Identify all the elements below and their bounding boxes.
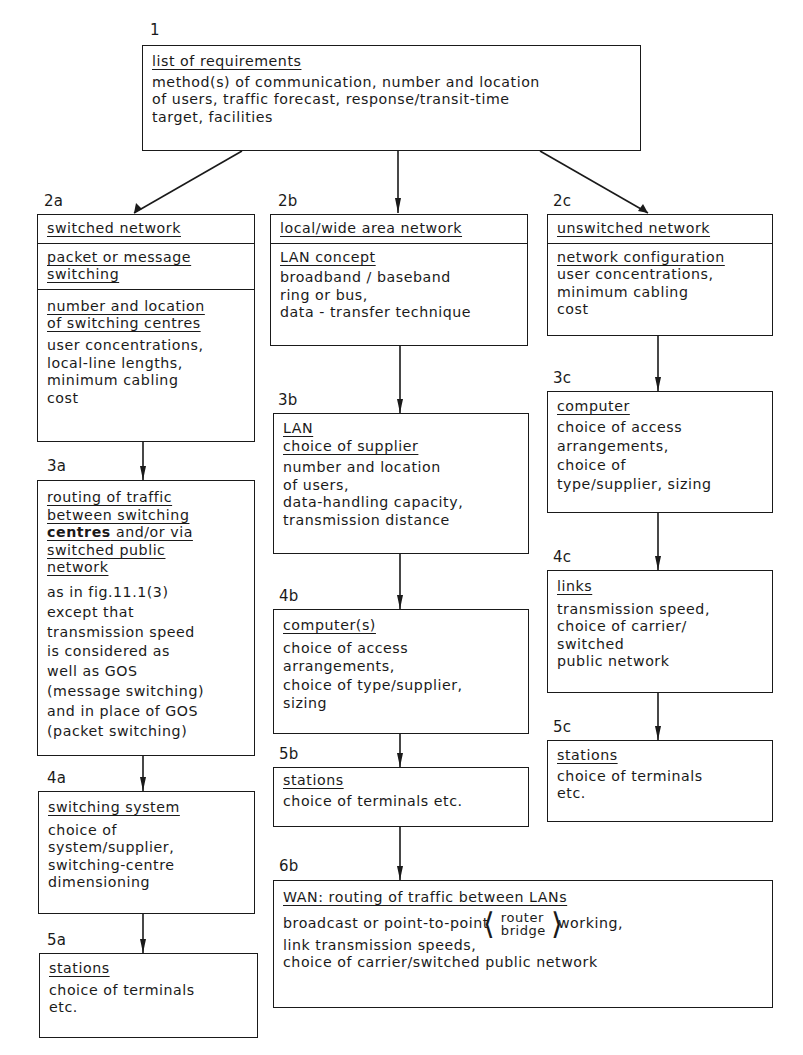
- router-bridge-bracket: router bridge: [493, 911, 554, 937]
- node-body: transmission speed, choice of carrier/ s…: [557, 601, 764, 671]
- node-body: choice of access arrangements, choice of…: [557, 418, 764, 494]
- node-body-line1: broadcast or point-to-point router bridg…: [283, 911, 764, 937]
- node-computers: computer(s) choice of access arrangement…: [273, 609, 529, 734]
- node-subtitle: LAN concept: [280, 249, 519, 267]
- node-title: computer(s): [283, 617, 520, 635]
- step-number-2c: 2c: [553, 193, 571, 209]
- node-title: links: [557, 578, 764, 596]
- node-title: stations: [49, 960, 249, 978]
- title-bold-part: centres: [47, 524, 111, 540]
- node-subtitle: packet or message switching: [47, 249, 246, 284]
- node-title: LAN choice of supplier: [283, 420, 520, 455]
- node-body: user concentrations, minimum cabling cos…: [557, 266, 764, 319]
- node-title: list of requirements: [152, 53, 632, 71]
- line-suffix: working,: [558, 915, 623, 933]
- node-switched-network: switched network packet or message switc…: [37, 214, 255, 442]
- step-number-3a: 3a: [47, 458, 66, 474]
- title-part: routing of traffic between switching: [47, 489, 189, 523]
- node-title: stations: [557, 747, 764, 765]
- line-prefix: broadcast or point-to-point: [283, 915, 489, 933]
- node-computer: computer choice of access arrangements, …: [547, 391, 773, 513]
- node-body: choice of system/supplier, switching-cen…: [48, 822, 246, 892]
- node-body: choice of access arrangements, choice of…: [283, 639, 520, 713]
- node-lan-choice-of-supplier: LAN choice of supplier number and locati…: [273, 413, 529, 554]
- node-links: links transmission speed, choice of carr…: [547, 570, 773, 693]
- step-number-3c: 3c: [553, 370, 571, 386]
- node-routing-of-traffic: routing of traffic between switching cen…: [37, 480, 255, 756]
- node-title: switched network: [47, 220, 246, 238]
- step-number-6b: 6b: [279, 858, 299, 874]
- step-number-1: 1: [150, 22, 160, 38]
- node-list-of-requirements: list of requirements method(s) of commun…: [142, 45, 641, 151]
- node-body: user concentrations, local-line lengths,…: [47, 337, 246, 407]
- node-body: as in fig.11.1(3) except that transmissi…: [47, 583, 246, 741]
- node-local-wide-area-network: local/wide area network LAN concept broa…: [270, 214, 528, 346]
- node-title: unswitched network: [557, 220, 764, 238]
- step-number-4c: 4c: [553, 549, 571, 565]
- node-body: choice of terminals etc.: [557, 768, 764, 803]
- node-unswitched-network: unswitched network network configuration…: [547, 214, 773, 336]
- node-subtitle: number and location of switching centres: [47, 298, 246, 333]
- node-body: choice of terminals etc.: [49, 982, 249, 1017]
- node-body: number and location of users, data-handl…: [283, 459, 520, 529]
- bracket-option-router: router: [501, 911, 546, 924]
- step-number-5c: 5c: [553, 719, 571, 735]
- step-number-2b: 2b: [278, 193, 298, 209]
- step-number-5b: 5b: [279, 746, 299, 762]
- step-number-2a: 2a: [44, 193, 63, 209]
- node-body: link transmission speeds, choice of carr…: [283, 937, 764, 972]
- step-number-4a: 4a: [47, 770, 66, 786]
- node-body: broadband / baseband ring or bus, data -…: [280, 269, 519, 322]
- node-stations-c: stations choice of terminals etc.: [547, 740, 773, 822]
- node-title: stations: [283, 772, 520, 790]
- node-stations-b: stations choice of terminals etc.: [273, 767, 529, 827]
- step-number-4b: 4b: [279, 588, 299, 604]
- node-wan-routing: WAN: routing of traffic between LANs bro…: [273, 880, 773, 1008]
- step-number-5a: 5a: [47, 932, 66, 948]
- node-body: choice of terminals etc.: [283, 793, 520, 811]
- node-switching-system: switching system choice of system/suppli…: [38, 791, 255, 914]
- step-number-3b: 3b: [278, 392, 298, 408]
- node-stations-a: stations choice of terminals etc.: [39, 953, 258, 1038]
- bracket-option-bridge: bridge: [501, 924, 546, 937]
- node-title: WAN: routing of traffic between LANs: [283, 889, 764, 907]
- node-title: local/wide area network: [280, 220, 519, 238]
- arrow-1-to-2a: [134, 151, 242, 213]
- node-subtitle: network configuration: [557, 249, 764, 267]
- node-title: computer: [557, 398, 764, 416]
- node-title: routing of traffic between switching cen…: [47, 489, 246, 577]
- node-body: method(s) of communication, number and l…: [152, 74, 632, 127]
- node-title: switching system: [48, 799, 246, 817]
